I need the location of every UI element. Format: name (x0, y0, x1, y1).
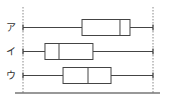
row-label: イ (6, 46, 16, 57)
iqr-box (63, 68, 111, 84)
iqr-box (82, 20, 130, 36)
box-plot-row: ウ (6, 68, 153, 84)
row-label: ア (6, 22, 16, 33)
iqr-box (45, 44, 93, 60)
box-plots: アイウ (6, 20, 153, 84)
box-plot-row: ア (6, 20, 153, 36)
boxplot-chart: アイウ (0, 0, 169, 103)
row-label: ウ (6, 70, 16, 81)
box-plot-row: イ (6, 44, 153, 60)
